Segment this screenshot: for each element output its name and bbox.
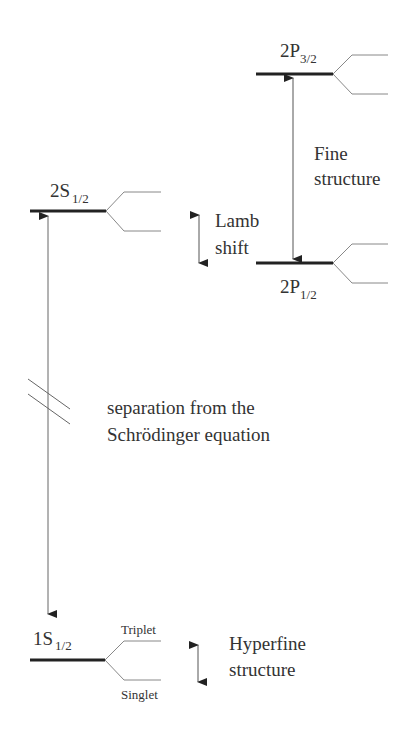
level-label-2p12: 2P1/2 (280, 276, 317, 302)
level-label-2p32: 2P3/2 (280, 40, 317, 66)
lamb-shift-label-1: Lamb (215, 210, 259, 231)
fine-structure-label-2: structure (314, 168, 380, 189)
axis-break-mark-2 (28, 394, 70, 424)
separation-label-2: Schrödinger equation (107, 424, 271, 445)
fine-structure-label-1: Fine (314, 143, 348, 164)
level-label-2s12: 2S1/2 (50, 180, 89, 206)
level-2s12: 2S1/2 (30, 180, 161, 231)
schrodinger-separation-arrow (28, 216, 70, 614)
hyperfine-label-1: Hyperfine (229, 633, 306, 654)
energy-level-diagram: 2P3/2 Fine structure 2S1/2 Lamb shift 2P… (0, 0, 407, 731)
singlet-label: Singlet (121, 687, 158, 702)
lamb-shift-label-2: shift (215, 237, 250, 258)
level-1s12: 1S1/2 Triplet Singlet (30, 622, 161, 702)
level-label-1s12: 1S1/2 (33, 628, 72, 653)
hyperfine-label-2: structure (229, 659, 295, 680)
level-2p12: 2P1/2 (256, 244, 388, 302)
triplet-label: Triplet (121, 622, 156, 637)
axis-break-mark-1 (28, 379, 70, 409)
level-2p32: 2P3/2 (256, 40, 388, 94)
separation-label-1: separation from the (107, 397, 255, 418)
